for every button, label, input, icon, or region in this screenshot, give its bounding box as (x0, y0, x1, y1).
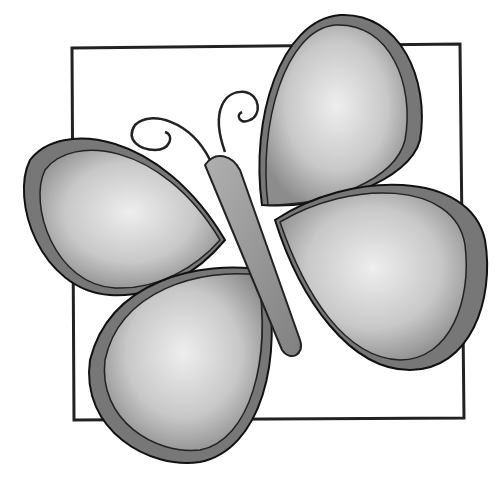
upper-right-wing (259, 15, 422, 206)
lower-right-wing (275, 185, 487, 370)
butterfly-illustration (0, 0, 497, 485)
antennae (132, 92, 258, 160)
lower-left-wing (89, 268, 272, 463)
